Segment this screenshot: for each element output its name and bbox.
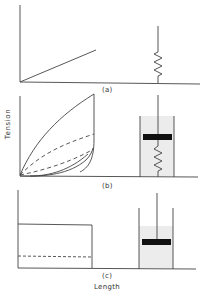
spring-icon [154, 26, 162, 83]
panel-b-x-axis [20, 176, 198, 177]
panel-c-label: (c) [102, 272, 112, 280]
panel-c-x-axis [18, 268, 196, 269]
panel-c-dashed-line [18, 256, 92, 257]
panel-b-label: (b) [102, 182, 113, 190]
panel-c-rect-curve [18, 224, 92, 268]
dashpot-fluid [139, 226, 173, 268]
dashpot-piston [143, 134, 172, 140]
panel-a-label: (a) [102, 86, 113, 94]
panel-c [18, 190, 196, 269]
x-axis-label: Length [94, 283, 120, 291]
panel-b [20, 94, 198, 177]
panel-a-linear-curve [20, 50, 96, 82]
dashpot-piston [142, 239, 171, 245]
y-axis-label: Tension [4, 108, 12, 140]
panel-a [20, 5, 200, 84]
figure-canvas [0, 0, 208, 296]
panel-a-x-axis [20, 82, 200, 84]
